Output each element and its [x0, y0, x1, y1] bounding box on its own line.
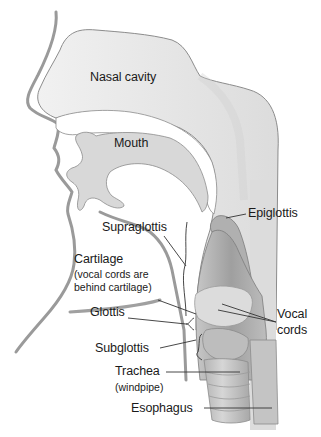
glottis-bracket [186, 318, 194, 330]
label-mouth: Mouth [114, 136, 148, 150]
leader-supraglottis [164, 236, 186, 266]
leader-subglottis [160, 340, 196, 348]
label-cartilage-note-1: (vocal cords are [74, 268, 149, 281]
label-vocal-cords-1: Vocal [277, 307, 307, 321]
label-glottis: Glottis [90, 305, 125, 319]
trachea-shape [204, 359, 250, 423]
supraglottis-bracket [183, 222, 187, 316]
thyroid-cartilage [195, 286, 253, 327]
larynx-anatomy-diagram: Nasal cavity Mouth Epiglottis Supraglott… [0, 0, 321, 437]
label-trachea-note: (windpipe) [115, 381, 163, 394]
label-supraglottis: Supraglottis [102, 220, 167, 234]
label-subglottis: Subglottis [95, 341, 149, 355]
label-cartilage-note-2: behind cartilage) [74, 281, 152, 294]
label-nasal-cavity: Nasal cavity [90, 70, 156, 84]
label-epiglottis: Epiglottis [248, 206, 298, 220]
label-esophagus: Esophagus [131, 401, 193, 415]
label-vocal-cords-2: cords [277, 323, 307, 337]
leader-glottis [128, 318, 186, 324]
label-cartilage: Cartilage [74, 252, 123, 266]
label-trachea: Trachea [115, 364, 160, 378]
esophagus-shape [250, 340, 278, 424]
